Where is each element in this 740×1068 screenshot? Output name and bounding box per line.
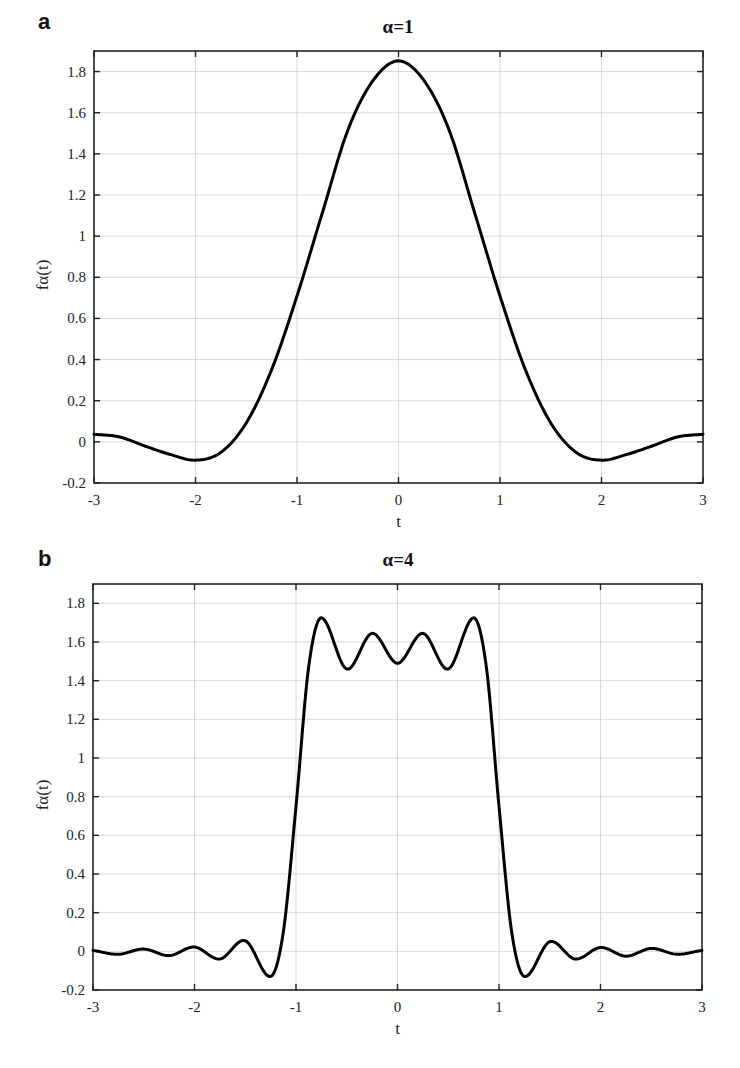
x-tick-label: -3	[87, 999, 100, 1015]
y-tick-label: 0.8	[67, 269, 86, 285]
chart-title-a: α=1	[383, 16, 414, 37]
x-tick-label: -1	[291, 492, 304, 508]
x-tick-label: -2	[188, 999, 201, 1015]
ticks-a: -3-2-10123-0.200.20.40.60.811.21.41.61.8	[62, 51, 707, 508]
x-axis-label-b: t	[395, 1019, 400, 1038]
y-tick-label: 1.6	[66, 634, 85, 650]
y-tick-label: 0.4	[66, 866, 85, 882]
y-tick-label: 1.8	[66, 595, 85, 611]
y-tick-label: 1.4	[67, 146, 86, 162]
y-tick-label: 0.2	[66, 905, 85, 921]
x-tick-label: -1	[290, 999, 303, 1015]
y-tick-label: 1.4	[66, 673, 85, 689]
x-tick-label: 0	[395, 492, 403, 508]
y-tick-label: 0	[78, 943, 86, 959]
grid-a	[94, 51, 703, 483]
chart-title-b: α=4	[383, 549, 414, 570]
y-tick-label: 0	[79, 434, 87, 450]
x-tick-label: -3	[88, 492, 101, 508]
y-tick-label: 1.6	[67, 105, 86, 121]
panel-letter-a: a	[38, 9, 51, 34]
y-tick-label: 0.2	[67, 393, 86, 409]
y-tick-label: -0.2	[62, 475, 86, 491]
x-tick-label: 3	[699, 492, 707, 508]
y-axis-label-a: fα(t)	[33, 260, 52, 291]
panel-letter-b: b	[38, 546, 51, 571]
y-axis-label-b: fα(t)	[33, 780, 52, 811]
y-tick-label: 1	[78, 750, 86, 766]
y-tick-label: 0.4	[67, 352, 86, 368]
x-tick-label: 1	[495, 999, 503, 1015]
x-tick-label: 0	[394, 999, 402, 1015]
chart-panel-b: b α=4 -3-2-10123-0.200.20.40.60.811.21.4…	[33, 546, 706, 1038]
x-tick-label: -2	[189, 492, 202, 508]
x-axis-label-a: t	[396, 512, 401, 531]
y-tick-label: 0.6	[66, 827, 85, 843]
x-tick-label: 2	[598, 492, 606, 508]
figure: a α=1 -3-2-10123-0.200.20.40.60.811.21.4…	[0, 0, 740, 1068]
y-tick-label: 1.2	[67, 187, 86, 203]
grid-b	[93, 584, 702, 990]
y-tick-label: 0.8	[66, 789, 85, 805]
x-tick-label: 2	[597, 999, 605, 1015]
y-tick-label: 1	[79, 228, 87, 244]
y-tick-label: 0.6	[67, 310, 86, 326]
y-tick-label: 1.2	[66, 711, 85, 727]
y-tick-label: -0.2	[61, 982, 85, 998]
chart-panel-a: a α=1 -3-2-10123-0.200.20.40.60.811.21.4…	[33, 9, 707, 531]
x-tick-label: 3	[698, 999, 706, 1015]
y-tick-label: 1.8	[67, 64, 86, 80]
x-tick-label: 1	[496, 492, 504, 508]
